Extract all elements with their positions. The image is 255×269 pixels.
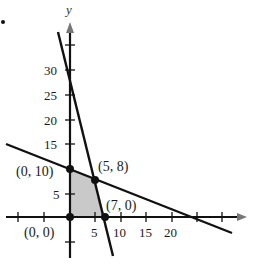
y-tick-5: 5 bbox=[53, 188, 60, 201]
y-tick-15: 15 bbox=[44, 138, 57, 151]
x-axis-arrow-icon bbox=[237, 213, 247, 221]
bullet-dot bbox=[1, 20, 5, 24]
point-label-7-0: (7, 0) bbox=[106, 199, 136, 213]
y-axis-label: y bbox=[66, 3, 72, 16]
y-tick-25: 25 bbox=[44, 89, 57, 102]
x-tick-20: 20 bbox=[164, 226, 177, 239]
y-tick-20: 20 bbox=[44, 114, 57, 127]
y-tick-30: 30 bbox=[44, 64, 57, 77]
x-tick-5: 5 bbox=[91, 226, 98, 239]
point-label-5-8: (5, 8) bbox=[98, 160, 128, 174]
y-axis-arrow-icon bbox=[66, 22, 74, 33]
point-label-0-10: (0, 10) bbox=[16, 165, 53, 179]
x-tick-10: 10 bbox=[113, 226, 126, 239]
constraint-line-shallow bbox=[6, 144, 232, 233]
x-tick-15: 15 bbox=[139, 226, 152, 239]
point-label-0-0: (0, 0) bbox=[24, 226, 54, 240]
